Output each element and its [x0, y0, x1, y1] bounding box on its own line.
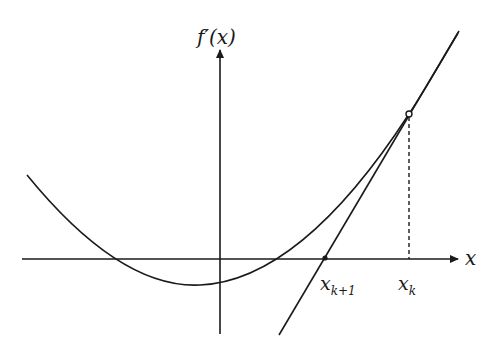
x-k-plus-1-base: x [320, 272, 331, 294]
x-k-plus-1-sub: k+1 [331, 284, 356, 298]
x-axis-label: x [465, 246, 476, 270]
y-axis-label: f′(x) [195, 25, 236, 49]
x-intercept-marker [322, 255, 327, 260]
x-k-sub: k [409, 284, 416, 298]
x-k-base: x [398, 272, 409, 294]
function-curve [27, 33, 458, 285]
newton-method-diagram: f′(x) x xk+1 xk [0, 0, 501, 348]
tangent-point-marker [406, 111, 412, 117]
x-k-label: xk [398, 272, 416, 298]
x-k-plus-1-label: xk+1 [320, 272, 356, 298]
tangent-line [279, 31, 459, 335]
